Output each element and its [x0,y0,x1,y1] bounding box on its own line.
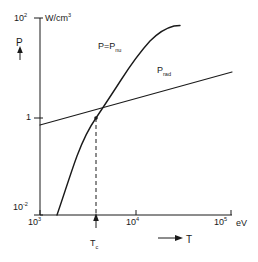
x-axis-unit-label: eV [236,219,247,228]
curve-p-rad [40,72,232,125]
chart-figure: 102 W/cm3 P 1 10-2 103 104 105 eV T Tc P… [0,0,258,262]
x-tick-label-1e5: 105 [214,218,227,227]
y-tick-label-1e2: 102 [14,14,27,23]
intersection-point-marker [94,116,98,120]
x-tick-label-1e4: 104 [126,218,139,227]
y-tick-label-1: 1 [26,113,31,122]
y-axis-name: P [16,38,23,48]
curve-label-p-rad: Prad [157,66,171,75]
x-axis-name: T [186,235,192,245]
curve-label-p-nu: P=Pnu [98,42,121,51]
y-tick-label-1e-2: 10-2 [13,203,28,212]
x-tick-label-1e3: 103 [28,218,41,227]
right-arrow-icon [175,235,183,241]
up-arrow-marker-icon [93,213,99,221]
tc-annotation-label: Tc [90,239,98,248]
curve-p-nu [57,26,180,216]
y-axis-unit-label: W/cm3 [45,14,71,23]
